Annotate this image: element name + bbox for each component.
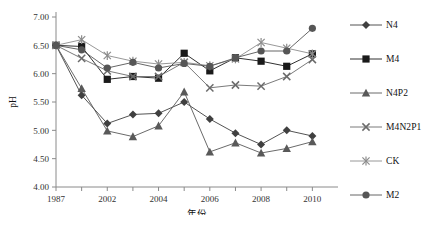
- legend-item-m4[interactable]: M4: [349, 42, 448, 76]
- data-point: [283, 126, 291, 134]
- legend-item-n4p2[interactable]: N4P2: [349, 76, 448, 110]
- legend-label: M4: [383, 54, 399, 64]
- data-point: [206, 148, 214, 156]
- data-point: [103, 127, 111, 135]
- data-point: [206, 115, 214, 123]
- x-tick-label: 2006: [201, 194, 220, 204]
- line-chart-svg: 7.006.506.005.505.004.504.00198720022004…: [0, 0, 345, 215]
- legend-marker-triangle-icon: [349, 86, 383, 100]
- chart-figure: 7.006.506.005.505.004.504.00198720022004…: [0, 0, 448, 234]
- data-point: [154, 122, 162, 130]
- y-tick-label: 4.00: [33, 182, 49, 192]
- data-point: [181, 60, 188, 67]
- y-tick-label: 4.50: [33, 154, 49, 164]
- data-point: [257, 58, 264, 65]
- y-tick-label: 7.00: [33, 12, 49, 22]
- plot-area-container: 7.006.506.005.505.004.504.00198720022004…: [0, 0, 345, 215]
- data-point: [181, 50, 188, 57]
- data-point: [78, 46, 85, 53]
- legend-label: M2: [383, 190, 399, 200]
- x-tick-label: 2002: [98, 194, 116, 204]
- x-tick-label: 1987: [47, 194, 66, 204]
- data-point: [78, 35, 85, 44]
- data-point: [231, 139, 239, 147]
- data-point: [155, 64, 162, 71]
- y-axis-title: pH: [8, 96, 18, 108]
- data-point: [283, 144, 291, 152]
- data-point: [257, 141, 265, 149]
- y-tick-label: 5.00: [33, 126, 49, 136]
- x-tick-label: 2008: [252, 194, 271, 204]
- data-point: [283, 73, 290, 80]
- data-point: [257, 38, 264, 47]
- data-point: [104, 76, 111, 83]
- data-point: [257, 47, 264, 54]
- data-point: [104, 51, 111, 60]
- legend-marker-cross-icon: [349, 120, 383, 134]
- legend-marker-diamond-icon: [349, 18, 383, 32]
- legend-item-m2[interactable]: M2: [349, 178, 448, 212]
- data-point: [180, 88, 188, 96]
- data-point: [283, 47, 290, 54]
- chart-legend: N4 M4 N4P2 M4N2P1 CK M2: [349, 8, 448, 218]
- legend-label: M4N2P1: [383, 122, 421, 132]
- data-point: [231, 129, 239, 137]
- data-point: [308, 137, 316, 145]
- y-tick-label: 6.00: [33, 69, 49, 79]
- data-point: [52, 42, 59, 49]
- data-point: [309, 25, 316, 32]
- x-axis-title: 年份: [187, 208, 207, 215]
- data-point: [104, 64, 111, 71]
- data-point: [155, 109, 163, 117]
- legend-item-m4n2p1[interactable]: M4N2P1: [349, 110, 448, 144]
- legend-label: N4: [383, 20, 398, 30]
- data-point: [78, 55, 85, 62]
- legend-marker-circle-icon: [349, 188, 383, 202]
- legend-item-n4[interactable]: N4: [349, 8, 448, 42]
- x-tick-label: 2004: [150, 194, 169, 204]
- data-point: [232, 54, 239, 61]
- legend-item-ck[interactable]: CK: [349, 144, 448, 178]
- data-point: [129, 59, 136, 66]
- legend-marker-square-icon: [349, 52, 383, 66]
- y-tick-label: 6.50: [33, 41, 49, 51]
- x-tick-label: 2010: [303, 194, 322, 204]
- data-point: [283, 63, 290, 70]
- data-point: [206, 63, 213, 70]
- y-tick-label: 5.50: [33, 97, 49, 107]
- legend-label: N4P2: [383, 88, 408, 98]
- data-point: [77, 84, 85, 92]
- legend-label: CK: [383, 156, 399, 166]
- data-point: [129, 110, 137, 118]
- legend-marker-asterisk-icon: [349, 154, 383, 168]
